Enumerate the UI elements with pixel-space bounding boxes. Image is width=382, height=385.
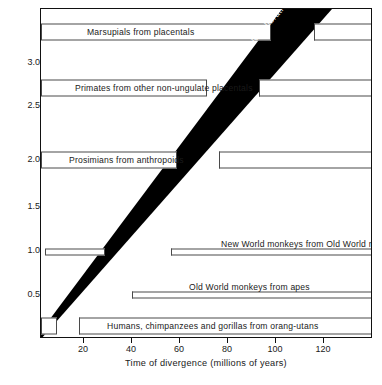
y-tick-label-5: 3.0: [14, 57, 40, 67]
possible-calibration-range-band: [41, 9, 372, 338]
x-tick-mark-3: [227, 338, 228, 343]
range-bar-primates-uncertain: [259, 80, 372, 97]
bar-label-old-world-monkeys: Old World monkeys from apes: [189, 282, 310, 292]
x-tick-mark-2: [179, 338, 180, 343]
x-axis-title: Time of divergence (millions of years): [40, 358, 372, 368]
x-tick-mark-4: [275, 338, 276, 343]
figure-root: Albumin, transferrin, plus DNA distance …: [0, 0, 382, 385]
x-tick-label-3: 80: [207, 344, 247, 354]
y-axis-tick-labels: 0.5 1.0 1.5 2.0 2.5 3.0: [0, 0, 40, 385]
y-tick-label-4: 2.5: [14, 100, 40, 110]
range-bar-marsupials-uncertain: [314, 24, 372, 41]
bar-label-new-world-monkeys: New World monkeys from Old World monkeys: [221, 239, 372, 249]
x-tick-label-4: 100: [255, 344, 295, 354]
range-bar-humans-known: [41, 318, 57, 335]
range-bar-old-world-monkeys-uncertain: [132, 292, 372, 299]
x-tick-mark-1: [131, 338, 132, 343]
y-tick-label-1: 1.0: [14, 245, 40, 255]
x-tick-label-0: 20: [63, 344, 103, 354]
range-bar-new-world-monkeys-uncertain: [171, 249, 372, 256]
y-tick-label-2: 1.5: [14, 201, 40, 211]
range-bar-prosimians: [41, 152, 177, 169]
x-axis-ticks: 20 40 60 80 100 120: [0, 338, 382, 358]
y-tick-label-3: 2.0: [14, 154, 40, 164]
y-tick-label-0: 0.5: [14, 289, 40, 299]
x-tick-label-1: 40: [111, 344, 151, 354]
range-bar-prosimians-uncertain: [219, 152, 372, 169]
x-tick-label-2: 60: [159, 344, 199, 354]
x-tick-mark-5: [323, 338, 324, 343]
range-bar-marsupials: [41, 24, 271, 41]
range-bar-new-world-monkeys-known: [45, 249, 105, 256]
range-bar-humans-uncertain: [79, 318, 372, 335]
plot-area: Marsupials from placentals Primates from…: [40, 8, 372, 338]
range-bar-primates: [41, 80, 207, 97]
x-tick-label-5: 120: [303, 344, 343, 354]
x-tick-mark-0: [83, 338, 84, 343]
